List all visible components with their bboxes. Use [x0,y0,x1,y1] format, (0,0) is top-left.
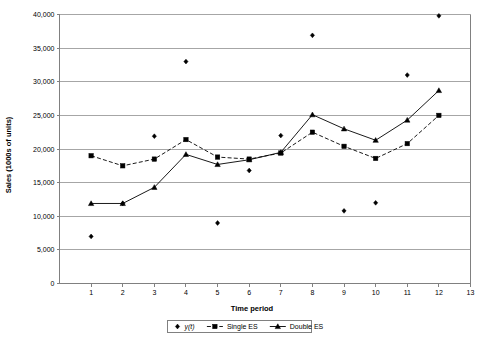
data-point-1-10 [373,156,377,160]
data-point-0-1 [89,234,93,239]
series-path-2 [91,90,439,203]
x-axis-title: Time period [231,304,274,313]
y-tick-label-40000: 40,000 [33,11,55,18]
data-point-1-2 [121,164,125,168]
y-axis-ticks: 05,00010,00015,00020,00025,00030,00035,0… [33,11,59,287]
x-tick-label-9: 9 [342,289,346,296]
y-tick-label-25000: 25,000 [33,112,55,119]
data-point-0-8 [310,33,314,38]
x-tick-label-10: 10 [372,289,380,296]
x-tick-label-7: 7 [279,289,283,296]
chart-legend: y(t)Single ESDouble ES [168,321,324,333]
data-point-2-9 [341,126,346,131]
data-point-1-1 [89,154,93,158]
y-axis-title: Sales (1000s of units) [4,116,13,193]
series-single-es [89,113,441,168]
data-point-0-5 [215,221,219,226]
y-tick-label-10000: 10,000 [33,213,55,220]
series-layer [88,13,441,238]
data-point-2-4 [183,152,188,157]
data-point-1-3 [152,157,156,161]
data-point-0-3 [152,134,156,139]
y-tick-label-0: 0 [51,280,55,287]
x-tick-label-6: 6 [247,289,251,296]
sales-forecast-chart: 05,00010,00015,00020,00025,00030,00035,0… [0,0,477,338]
gridlines [60,15,471,250]
chart-canvas: 05,00010,00015,00020,00025,00030,00035,0… [0,0,477,338]
data-point-1-4 [184,137,188,141]
x-tick-label-11: 11 [404,289,411,296]
data-point-0-6 [247,168,251,173]
data-point-2-12 [436,88,441,93]
x-tick-label-1: 1 [89,289,93,296]
legend-label-0: y(t) [184,323,195,331]
x-tick-label-4: 4 [184,289,188,296]
y-tick-label-20000: 20,000 [33,146,55,153]
data-point-1-12 [437,113,441,117]
data-point-0-11 [405,73,409,78]
data-point-1-8 [310,130,314,134]
x-tick-label-5: 5 [216,289,220,296]
legend-label-1: Single ES [227,323,258,331]
data-point-0-10 [374,200,378,205]
x-axis-ticks: 12345678910111213 [89,284,474,297]
data-point-0-4 [184,59,188,64]
data-point-1-5 [215,155,219,159]
series-double-es [88,88,441,206]
data-point-0-7 [279,133,283,138]
series-y-t- [89,13,441,238]
x-tick-label-2: 2 [121,289,125,296]
series-path-1 [91,115,439,165]
legend-label-2: Double ES [290,323,324,330]
y-tick-label-15000: 15,000 [33,179,55,186]
legend-marker-square-icon [213,324,217,328]
data-point-0-9 [342,208,346,213]
y-tick-label-5000: 5,000 [37,246,55,253]
y-tick-label-35000: 35,000 [33,45,55,52]
x-tick-label-13: 13 [467,289,475,296]
x-tick-label-12: 12 [435,289,443,296]
x-tick-label-8: 8 [310,289,314,296]
data-point-1-9 [342,144,346,148]
data-point-1-11 [405,141,409,145]
x-tick-label-3: 3 [152,289,156,296]
data-point-2-8 [310,112,315,117]
y-tick-label-30000: 30,000 [33,78,55,85]
